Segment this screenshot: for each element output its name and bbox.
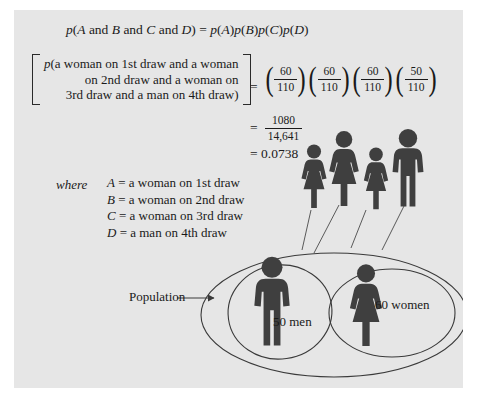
connector-line-4 — [382, 206, 404, 250]
population-label: Population — [129, 289, 185, 305]
women-subset-ellipse — [329, 269, 455, 357]
woman-icon — [301, 144, 326, 208]
population-diagram — [14, 10, 463, 388]
subset-figures — [254, 257, 382, 346]
women-count-label: 60 women — [375, 297, 430, 313]
sample-connector-lines — [302, 205, 404, 253]
connector-line-2 — [314, 205, 339, 253]
connector-line-3 — [351, 210, 366, 248]
woman-icon — [329, 131, 359, 206]
man-icon — [254, 257, 289, 346]
connector-line-1 — [302, 210, 311, 250]
men-count-label: 50 men — [273, 314, 312, 330]
woman-icon — [364, 148, 388, 210]
man-icon — [393, 129, 424, 207]
sample-figures — [301, 129, 423, 209]
figure-panel: p(A and B and C and D) = p(A)p(B)p(C)p(D… — [14, 10, 463, 388]
